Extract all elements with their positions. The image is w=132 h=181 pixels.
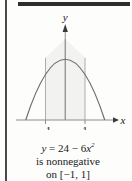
figure-caption: y = 24 − 6x2 is nonnegative on [−1, 1] [8, 139, 128, 181]
caption-line-2: is nonnegative [8, 155, 128, 168]
equation-exponent: 2 [91, 141, 95, 149]
equation-equals: = [49, 142, 55, 154]
equation-constant: 24 [58, 142, 69, 154]
x-tick-label-1: 1 [82, 124, 88, 130]
x-axis-arrow [113, 117, 119, 123]
left-divider-rule [5, 0, 7, 181]
parabola-graph: y x −1 1 [12, 12, 130, 130]
figure-panel: y x −1 1 y = 24 − 6x2 is nonnegative on … [0, 0, 132, 181]
x-axis-label: x [120, 114, 126, 126]
y-axis-label: y [62, 12, 68, 23]
top-divider-rule [18, 2, 130, 6]
equation-minus: − [72, 142, 78, 154]
x-tick-label-minus-1: −1 [40, 124, 52, 130]
equation-lhs: y [41, 142, 46, 154]
y-axis-arrow [63, 24, 68, 32]
caption-line-3: on [−1, 1] [8, 168, 128, 181]
caption-equation: y = 24 − 6x2 [8, 139, 128, 155]
